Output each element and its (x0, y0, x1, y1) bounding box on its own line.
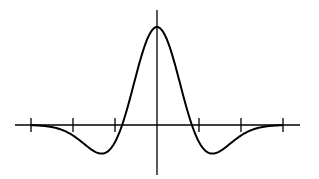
axes (15, 10, 300, 175)
wavelet-chart (0, 0, 319, 179)
